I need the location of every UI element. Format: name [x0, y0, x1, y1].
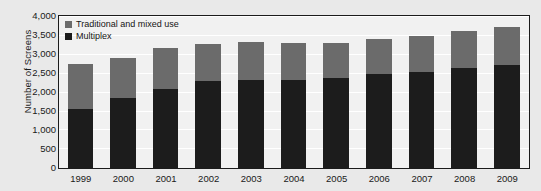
bar-group	[451, 17, 477, 168]
y-axis-tick-label: 4,000	[16, 12, 56, 22]
x-axis-tick-label: 2002	[198, 173, 219, 184]
bar-segment	[409, 72, 435, 168]
bar-segment	[238, 42, 264, 80]
bar-group	[195, 17, 221, 168]
bar-segment	[153, 48, 179, 90]
y-axis-tick-label: 3,500	[16, 31, 56, 41]
bar-segment	[494, 27, 520, 66]
y-axis-tick-label: 2,000	[16, 87, 56, 97]
bar-segment	[494, 65, 520, 168]
x-axis-tick-label: 2006	[369, 173, 390, 184]
bar-segment	[409, 36, 435, 72]
chart-screenshot: Number of Screens 4,0003,5003,0002,5002,…	[0, 0, 541, 191]
legend-item: Traditional and mixed use	[65, 19, 179, 30]
bar-segment	[281, 80, 307, 168]
bar-group	[366, 17, 392, 168]
legend-item-label: Multiplex	[76, 32, 112, 41]
x-axis-tick-label: 2000	[113, 173, 134, 184]
x-axis-tick-label: 2007	[411, 173, 432, 184]
y-axis-tick-label: 1,000	[16, 125, 56, 135]
y-axis-tick-label: 2,500	[16, 68, 56, 78]
x-axis-tick-labels: 1999200020012002200320042005200620072008…	[58, 170, 530, 188]
legend-swatch-icon	[65, 21, 72, 28]
bar-segment	[323, 43, 349, 79]
bar-segment	[281, 43, 307, 80]
bar-segment	[238, 80, 264, 168]
bar-group	[238, 17, 264, 168]
bar-segment	[110, 98, 136, 168]
bar-segment	[153, 89, 179, 168]
bar-segment	[366, 74, 392, 169]
x-axis-tick-label: 2001	[155, 173, 176, 184]
plot-area: Traditional and mixed useMultiplex	[58, 15, 530, 169]
legend: Traditional and mixed useMultiplex	[65, 19, 179, 43]
y-axis-tick-label: 1,500	[16, 106, 56, 116]
y-axis-tick-label: 0	[16, 163, 56, 173]
x-axis-tick-label: 1999	[70, 173, 91, 184]
y-axis-tick-label: 3,000	[16, 49, 56, 59]
bar-group	[409, 17, 435, 168]
bar-group	[281, 17, 307, 168]
bar-segment	[68, 64, 94, 109]
bar-segment	[195, 44, 221, 82]
bar-group	[494, 17, 520, 168]
legend-swatch-icon	[65, 33, 72, 40]
x-axis-tick-label: 2008	[454, 173, 475, 184]
x-axis-tick-label: 2004	[283, 173, 304, 184]
bar-segment	[195, 81, 221, 168]
x-axis-tick-label: 2003	[241, 173, 262, 184]
x-axis-tick-label: 2005	[326, 173, 347, 184]
y-axis-tick-label: 500	[16, 144, 56, 154]
bar-segment	[68, 109, 94, 168]
y-axis-tick-labels: 4,0003,5003,0002,5002,0001,5001,0005000	[16, 0, 56, 191]
bar-segment	[451, 68, 477, 168]
figure-frame: Number of Screens 4,0003,5003,0002,5002,…	[0, 0, 541, 191]
bar-group	[323, 17, 349, 168]
bar-segment	[451, 31, 477, 68]
legend-item-label: Traditional and mixed use	[76, 20, 179, 29]
x-axis-tick-label: 2009	[497, 173, 518, 184]
legend-item: Multiplex	[65, 31, 179, 42]
bar-segment	[323, 78, 349, 168]
bar-segment	[110, 58, 136, 98]
bar-segment	[366, 39, 392, 74]
